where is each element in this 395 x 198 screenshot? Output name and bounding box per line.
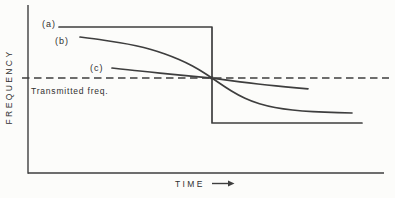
curve-c-label: (c) (90, 63, 104, 73)
frequency-time-chart: (a) (b) (c) Transmitted freq. FREQUENCY … (0, 0, 395, 198)
x-axis-label: TIME (175, 179, 205, 189)
curve-b-label: (b) (55, 36, 69, 46)
figure-canvas: (a) (b) (c) Transmitted freq. FREQUENCY … (0, 0, 395, 198)
curve-b (80, 37, 352, 113)
transmitted-freq-label: Transmitted freq. (31, 86, 109, 96)
crossover-dot (210, 76, 214, 80)
curve-a-label: (a) (42, 19, 56, 29)
time-arrow-icon (212, 181, 235, 187)
curve-a-step (59, 27, 362, 123)
y-axis-label: FREQUENCY (4, 50, 14, 125)
